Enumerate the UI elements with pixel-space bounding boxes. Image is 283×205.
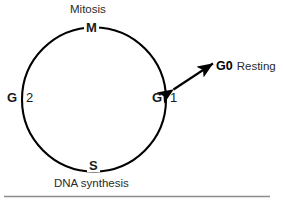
g0-resting-label: G0 Resting xyxy=(216,60,276,73)
phase-marker-g1-code: G xyxy=(152,91,162,104)
g0-resting-text: Resting xyxy=(237,61,276,73)
cell-cycle-figure: Mitosis M G 2 G 1 S DNA synthesis G0 Res… xyxy=(0,0,283,205)
dna-synthesis-caption: DNA synthesis xyxy=(54,178,129,190)
phase-marker-g1-number: 1 xyxy=(170,91,177,104)
phase-marker-m: M xyxy=(84,21,99,34)
cell-cycle-ring xyxy=(22,28,166,172)
phase-marker-s: S xyxy=(87,159,100,172)
g0-code-text: G0 xyxy=(216,60,233,73)
mitosis-caption: Mitosis xyxy=(70,4,106,16)
phase-marker-g2-number: 2 xyxy=(26,91,33,104)
phase-marker-g2-code: G xyxy=(7,91,17,104)
diagram-canvas xyxy=(0,0,283,205)
g0-double-arrow xyxy=(174,64,214,90)
